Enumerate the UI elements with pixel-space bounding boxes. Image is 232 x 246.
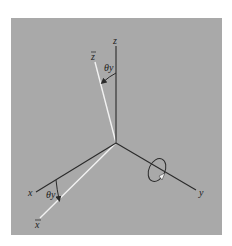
z-axis-label: z [112,35,117,46]
y-axis-label: y [198,187,204,198]
theta-label-top: θy [104,62,114,73]
x-axis-label: x [27,187,33,198]
rotation-diagram: z z θy x θy x y [0,0,232,246]
svg-text:z: z [90,51,95,62]
svg-text:x: x [34,219,40,230]
theta-label-bottom: θy [46,189,56,200]
